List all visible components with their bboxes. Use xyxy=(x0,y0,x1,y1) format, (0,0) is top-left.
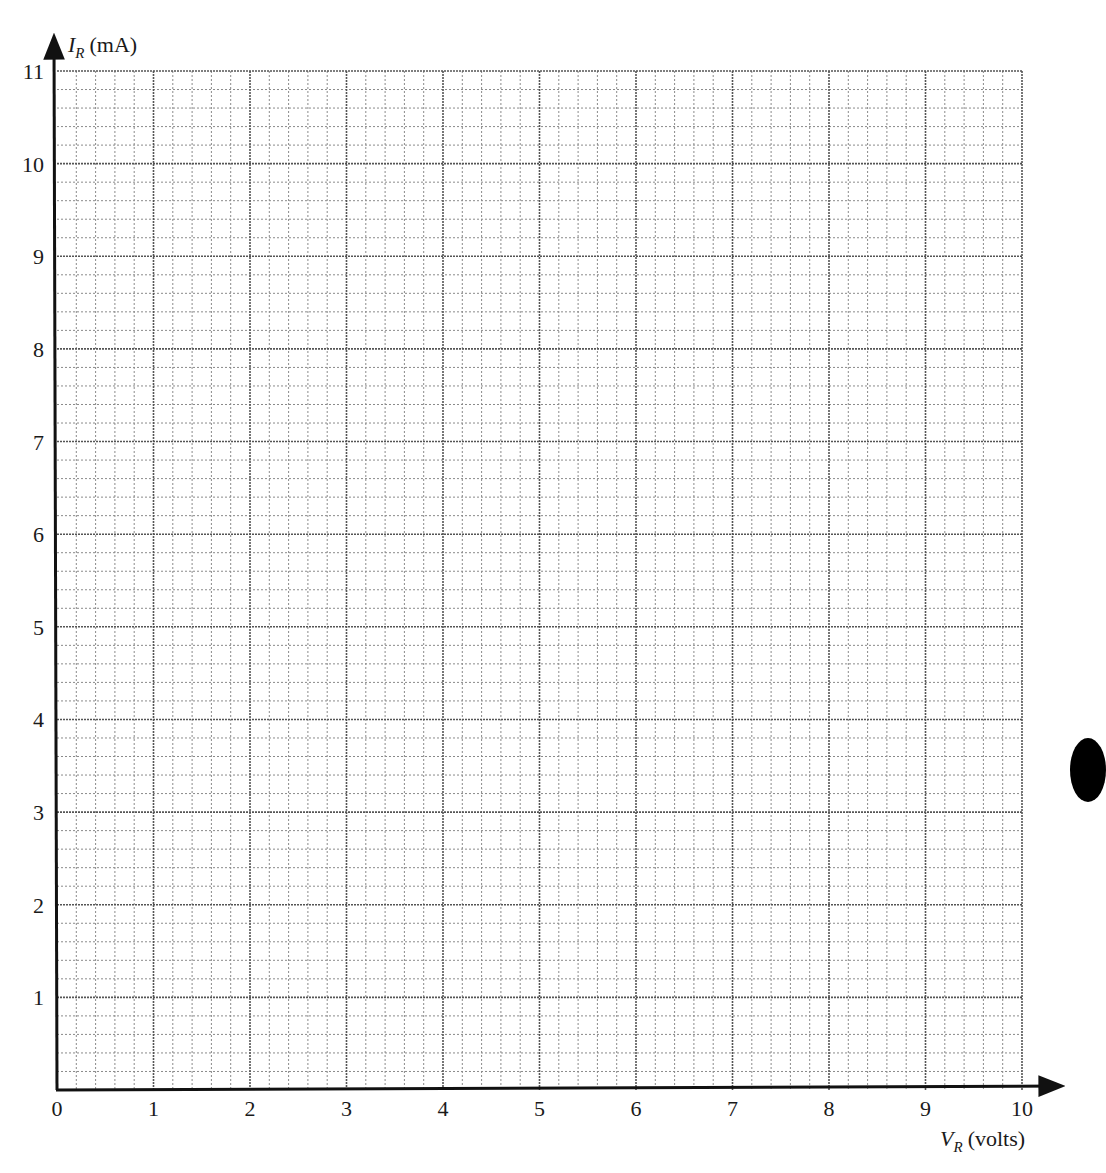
x-tick-labels: 012345678910 xyxy=(52,1096,1034,1121)
y-tick-label: 4 xyxy=(33,707,44,732)
minor-grid xyxy=(57,71,1022,1090)
y-axis xyxy=(54,38,57,1090)
x-tick-label: 1 xyxy=(148,1096,159,1121)
y-tick-label: 5 xyxy=(33,615,44,640)
x-tick-label: 5 xyxy=(534,1096,545,1121)
x-tick-label: 9 xyxy=(920,1096,931,1121)
y-axis-title: IR(mA) xyxy=(67,32,137,61)
x-tick-label: 6 xyxy=(631,1096,642,1121)
y-tick-label: 10 xyxy=(22,152,44,177)
x-tick-label: 3 xyxy=(341,1096,352,1121)
y-tick-label: 11 xyxy=(23,59,44,84)
major-grid xyxy=(57,71,1022,1090)
x-axis xyxy=(56,1086,1060,1090)
x-tick-label: 2 xyxy=(245,1096,256,1121)
x-tick-label: 4 xyxy=(438,1096,449,1121)
y-tick-label: 7 xyxy=(33,430,44,455)
axes xyxy=(54,38,1060,1090)
y-tick-label: 3 xyxy=(33,800,44,825)
x-tick-label: 8 xyxy=(824,1096,835,1121)
y-tick-label: 8 xyxy=(33,337,44,362)
y-tick-labels: 1234567891011 xyxy=(22,59,44,1010)
y-tick-label: 2 xyxy=(33,893,44,918)
x-tick-label: 7 xyxy=(727,1096,738,1121)
x-axis-title: VR(volts) xyxy=(940,1126,1025,1155)
x-tick-label: 10 xyxy=(1011,1096,1033,1121)
y-tick-label: 6 xyxy=(33,522,44,547)
y-tick-label: 9 xyxy=(33,244,44,269)
y-tick-label: 1 xyxy=(33,985,44,1010)
x-tick-label: 0 xyxy=(52,1096,63,1121)
page-edge-tab-mark xyxy=(1070,738,1106,802)
